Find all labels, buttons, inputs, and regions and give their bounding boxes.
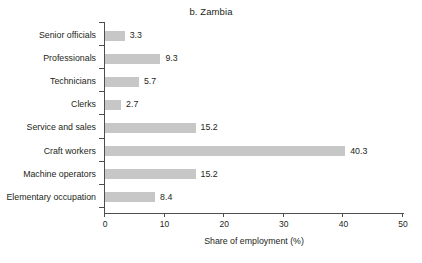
category-label: Clerks [71, 99, 96, 109]
bar-row: Craft workers40.3 [0, 144, 422, 167]
bar[interactable] [105, 192, 155, 202]
bar-value-label: 9.3 [165, 53, 177, 63]
bar-row: Service and sales15.2 [0, 120, 422, 143]
x-axis-tick [104, 213, 105, 217]
x-axis-title: Share of employment (%) [104, 236, 404, 246]
x-axis-tick [223, 213, 224, 217]
bar[interactable] [105, 54, 160, 64]
x-axis-tick [342, 213, 343, 217]
bar-row: Senior officials3.3 [0, 28, 422, 51]
bar[interactable] [105, 31, 125, 41]
bar-row: Technicians5.7 [0, 74, 422, 97]
bar-value-label: 15.2 [201, 122, 218, 132]
chart-figure: b. Zambia 01020304050 Senior officials3.… [0, 0, 422, 263]
category-label: Senior officials [39, 30, 96, 40]
x-axis-tick-label: 50 [388, 219, 418, 229]
category-label: Professionals [43, 53, 96, 63]
category-label: Elementary occupation [7, 192, 97, 202]
bar[interactable] [105, 146, 345, 156]
category-label: Service and sales [27, 122, 96, 132]
plot-area: 01020304050 Senior officials3.3Professio… [0, 0, 422, 263]
x-axis-tick-label: 40 [328, 219, 358, 229]
category-label: Technicians [50, 76, 96, 86]
bar-row: Machine operators15.2 [0, 167, 422, 190]
x-axis-tick [283, 213, 284, 217]
bar-row: Elementary occupation8.4 [0, 190, 422, 213]
bar-row: Clerks2.7 [0, 97, 422, 120]
bar-value-label: 8.4 [160, 192, 172, 202]
category-label: Machine operators [23, 169, 96, 179]
x-axis-tick-label: 10 [150, 219, 180, 229]
category-label: Craft workers [44, 146, 96, 156]
x-axis-tick [164, 213, 165, 217]
y-axis-tick [99, 22, 104, 23]
x-axis-tick [402, 213, 403, 217]
x-axis-tick-label: 30 [269, 219, 299, 229]
bar-value-label: 15.2 [201, 169, 218, 179]
x-axis-line [104, 213, 404, 214]
bar-value-label: 40.3 [350, 146, 367, 156]
bar[interactable] [105, 169, 196, 179]
bar-value-label: 5.7 [144, 76, 156, 86]
bar[interactable] [105, 100, 121, 110]
bar[interactable] [105, 123, 196, 133]
bar-row: Professionals9.3 [0, 51, 422, 74]
x-axis-tick-label: 20 [209, 219, 239, 229]
x-axis-tick-label: 0 [90, 219, 120, 229]
bar-value-label: 3.3 [130, 30, 142, 40]
bar-value-label: 2.7 [126, 99, 138, 109]
bar[interactable] [105, 77, 139, 87]
